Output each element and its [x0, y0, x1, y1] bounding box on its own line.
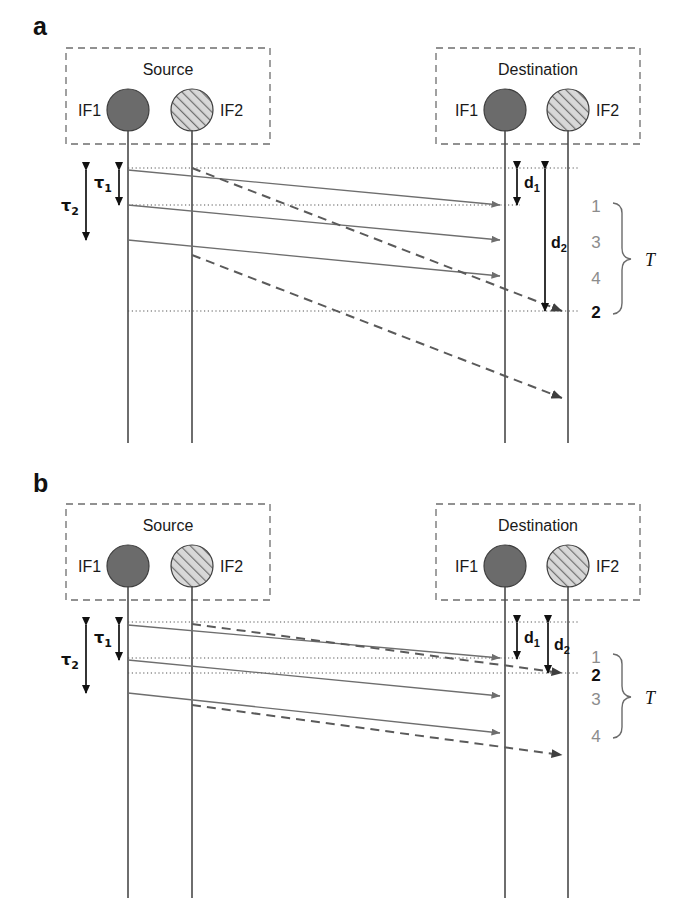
destination-title: Destination — [498, 61, 578, 78]
source-if2-circle-icon — [171, 545, 213, 587]
figure-background — [0, 0, 687, 916]
source-if1-circle-icon — [107, 545, 149, 587]
source-if2-circle-icon — [171, 89, 213, 131]
destination-if1-label: IF1 — [455, 558, 478, 575]
source-title: Source — [143, 517, 194, 534]
arrival-order-item-1: 1 — [591, 648, 600, 667]
destination-if1-circle-icon — [484, 545, 526, 587]
arrival-order-item-2: 3 — [591, 233, 600, 252]
arrival-order-item-4: 4 — [591, 727, 600, 746]
destination-title: Destination — [498, 517, 578, 534]
arrival-order-item-2: 2 — [591, 666, 600, 685]
arrival-order-item-1: 1 — [591, 197, 600, 216]
destination-if2-circle-icon — [547, 89, 589, 131]
panel-b-letter: b — [33, 469, 48, 497]
destination-if2-circle-icon — [547, 545, 589, 587]
destination-if1-label: IF1 — [455, 102, 478, 119]
destination-if2-label: IF2 — [596, 558, 619, 575]
source-if1-circle-icon — [107, 89, 149, 131]
arrival-order-item-3: 4 — [591, 269, 600, 288]
source-if2-label: IF2 — [220, 558, 243, 575]
source-if1-label: IF1 — [78, 102, 101, 119]
timing-diagram-figure: a Source IF1 IF2 Destination IF1 IF2 — [0, 0, 687, 916]
source-title: Source — [143, 61, 194, 78]
arrival-order-item-3: 3 — [591, 690, 600, 709]
source-if2-label: IF2 — [220, 102, 243, 119]
destination-if2-label: IF2 — [596, 102, 619, 119]
panel-a-letter: a — [33, 12, 48, 40]
source-if1-label: IF1 — [78, 558, 101, 575]
arrival-order-item-4: 2 — [591, 303, 600, 322]
destination-if1-circle-icon — [484, 89, 526, 131]
